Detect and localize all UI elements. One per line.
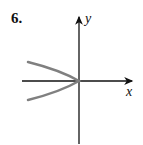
graph: y x [0,0,143,145]
y-axis-label: y [83,11,92,26]
x-axis-label: x [125,84,133,99]
